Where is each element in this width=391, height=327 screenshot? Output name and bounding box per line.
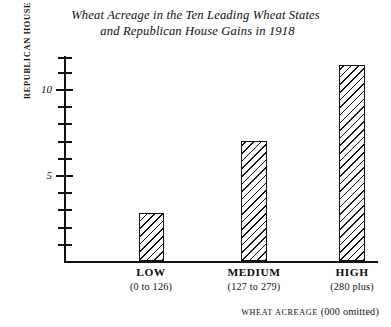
category-range-medium: (127 to 279) — [228, 281, 281, 292]
bar-low — [139, 213, 164, 261]
y-tick-6 — [58, 158, 72, 160]
chart-title-line-1: Wheat Acreage in the Ten Leading Wheat S… — [0, 7, 391, 23]
category-label-high: HIGH (280 plus) — [330, 266, 374, 292]
y-tick-label-5: 5 — [47, 169, 53, 181]
category-name-medium: MEDIUM — [228, 266, 281, 278]
y-tick-12 — [58, 57, 72, 59]
plot-area: 5 10 — [64, 56, 378, 263]
y-tick-8 — [58, 123, 72, 125]
category-range-high: (280 plus) — [330, 281, 374, 292]
y-tick-5 — [56, 175, 73, 177]
y-axis-label: REPUBLICAN HOUSE GAINS — [23, 0, 32, 99]
bar-high — [339, 65, 365, 261]
y-tick-11 — [58, 72, 72, 74]
x-axis-label-note: (000 omitted) — [321, 306, 379, 317]
category-name-high: HIGH — [330, 266, 374, 278]
y-tick-4 — [58, 192, 72, 194]
y-tick-2 — [58, 227, 72, 229]
chart-title-line-2: and Republican House Gains in 1918 — [0, 23, 391, 39]
x-axis-label-main: WHEAT ACREAGE — [241, 308, 318, 317]
category-range-low: (0 to 126) — [130, 281, 172, 292]
y-tick-9 — [58, 106, 72, 108]
x-axis-line — [64, 261, 378, 263]
y-tick-3 — [58, 209, 72, 211]
category-label-low: LOW (0 to 126) — [130, 266, 172, 292]
y-tick-10 — [56, 89, 73, 91]
category-name-low: LOW — [130, 266, 172, 278]
y-tick-7 — [58, 141, 72, 143]
chart-figure: Wheat Acreage in the Ten Leading Wheat S… — [0, 0, 391, 327]
x-axis-label: WHEAT ACREAGE (000 omitted) — [241, 306, 379, 317]
chart-title: Wheat Acreage in the Ten Leading Wheat S… — [0, 7, 391, 39]
y-tick-label-10: 10 — [41, 83, 52, 95]
y-tick-1 — [58, 244, 72, 246]
bar-medium — [241, 141, 267, 261]
category-label-medium: MEDIUM (127 to 279) — [228, 266, 281, 292]
